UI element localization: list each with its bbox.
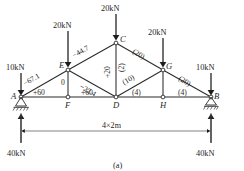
force-label-AE: −67.1 [22, 71, 42, 88]
load-label-B: 10kN [196, 63, 214, 72]
force-label-CD-right: (2) [117, 63, 126, 72]
node-label-A: A [10, 91, 17, 101]
load-label-C: 20kN [101, 4, 119, 13]
joint-F [66, 95, 70, 99]
force-label-EF: 0 [61, 78, 65, 87]
node-label-G: G [166, 61, 173, 71]
load-label-G: 20kN [148, 28, 166, 37]
joint-H [161, 95, 165, 99]
load-label-A: 10kN [6, 63, 24, 72]
reaction-label-B: 40kN [196, 149, 214, 158]
node-label-D: D [112, 100, 120, 110]
force-label-HB: (4) [178, 88, 187, 97]
joint-E [66, 68, 70, 72]
force-label-AF: +60 [33, 88, 45, 97]
load-label-E: 20kN [53, 21, 71, 30]
force-label-CD-left: +20 [103, 66, 112, 78]
force-label-DG: (10) [121, 72, 137, 86]
span-label: 4×2m [102, 121, 122, 130]
joint-D [114, 95, 118, 99]
node-label-C: C [120, 34, 126, 44]
truss-diagram: 10kN 20kN 20kN 20kN 10kN 40kN 40kN A B C… [0, 0, 244, 171]
joint-C [114, 41, 118, 45]
joint-G [161, 68, 165, 72]
force-label-GB: (20) [177, 74, 193, 88]
force-label-EC: −44.7 [71, 43, 91, 60]
node-label-H: H [159, 100, 167, 110]
node-label-B: B [214, 91, 220, 101]
figure-caption: (a) [113, 161, 122, 170]
truss-figure: 10kN 20kN 20kN 20kN 10kN 40kN 40kN A B C… [0, 0, 244, 171]
reaction-label-A: 40kN [7, 149, 25, 158]
node-label-F: F [64, 100, 71, 110]
force-label-FD: +60 [81, 88, 93, 97]
node-label-E: E [58, 60, 65, 70]
force-label-DH: (4) [132, 88, 141, 97]
